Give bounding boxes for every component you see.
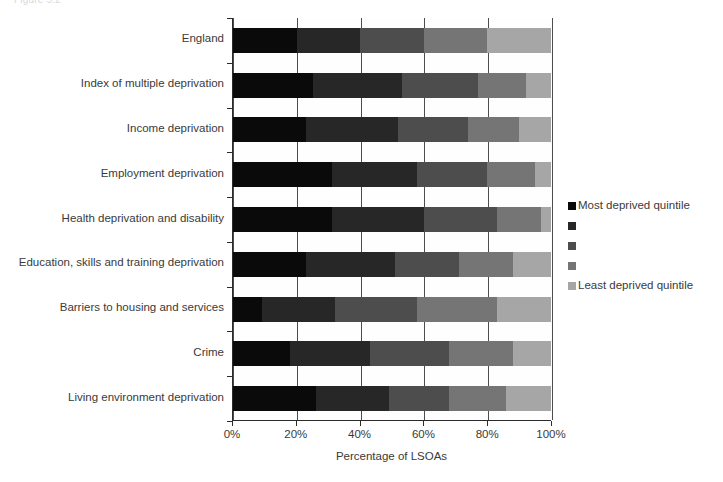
category-label: Health deprivation and disability (0, 213, 224, 225)
x-tick-mark (296, 421, 297, 426)
x-tick-label: 20% (284, 428, 307, 440)
x-tick-label: 0% (224, 428, 241, 440)
x-tick-mark (487, 421, 488, 426)
legend-label: Most deprived quintile (578, 200, 690, 212)
legend-item[interactable] (568, 256, 718, 276)
x-axis-title: Percentage of LSOAs (232, 450, 551, 462)
legend-label: Least deprived quintile (578, 280, 693, 292)
category-label: Crime (0, 347, 224, 359)
category-label: Income deprivation (0, 123, 224, 135)
x-tick-mark (360, 421, 361, 426)
x-tick-label: 80% (476, 428, 499, 440)
legend-swatch-icon (568, 222, 576, 230)
x-tick-label: 100% (536, 428, 565, 440)
legend: Most deprived quintileLeast deprived qui… (568, 196, 718, 296)
chart-container: Figure 5.2 EnglandIndex of multiple depr… (0, 0, 723, 482)
legend-item[interactable]: Least deprived quintile (568, 276, 718, 296)
legend-item[interactable]: Most deprived quintile (568, 196, 718, 216)
x-tick-mark (423, 421, 424, 426)
legend-swatch-icon (568, 242, 576, 250)
category-label: Barriers to housing and services (0, 302, 224, 314)
legend-swatch-icon (568, 282, 576, 290)
x-tick-label: 60% (412, 428, 435, 440)
category-label: Living environment deprivation (0, 392, 224, 404)
category-label: Education, skills and training deprivati… (0, 257, 224, 269)
x-tick-mark (232, 421, 233, 426)
x-tick-label: 40% (348, 428, 371, 440)
legend-item[interactable] (568, 236, 718, 256)
category-label: Employment deprivation (0, 168, 224, 180)
category-label: Index of multiple deprivation (0, 78, 224, 90)
legend-swatch-icon (568, 202, 576, 210)
x-tick-mark (551, 421, 552, 426)
category-label: England (0, 33, 224, 45)
legend-swatch-icon (568, 262, 576, 270)
legend-item[interactable] (568, 216, 718, 236)
